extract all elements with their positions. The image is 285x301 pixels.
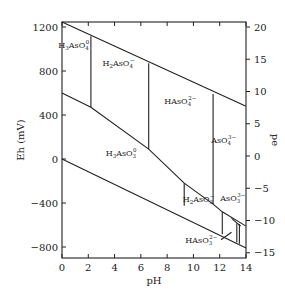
y-axis-left-label: Eh (mV)	[15, 119, 26, 161]
y-right-tick-label: 10	[254, 86, 267, 97]
y-right-tick-label: −5	[254, 183, 269, 194]
water-upper-limit	[62, 22, 246, 106]
water-lower-limit	[62, 159, 246, 248]
y-left-tick-label: −400	[31, 198, 58, 209]
x-axis-label: pH	[146, 275, 161, 286]
as5-as3-boundary	[62, 93, 246, 226]
species-label-haso4: HAsO42−	[164, 95, 196, 107]
x-tick-label: 4	[111, 262, 117, 273]
eh-ph-diagram: 0246810121412008004000−400−80020151050−5…	[0, 0, 285, 301]
y-right-tick-label: 5	[254, 118, 260, 129]
y-left-tick-label: 400	[39, 110, 58, 121]
y-right-tick-label: 15	[254, 54, 267, 65]
y-left-tick-label: 0	[52, 154, 58, 165]
species-label-h2aso4: H2AsO4−	[102, 57, 134, 69]
y-axis-right-label: pe	[270, 134, 281, 146]
y-left-tick-label: 1200	[33, 22, 58, 33]
x-tick-label: 0	[59, 262, 65, 273]
y-left-tick-label: −800	[31, 242, 58, 253]
species-label-aso4: AsO43−	[210, 134, 236, 146]
species-label-haso3: HAsO32−	[185, 234, 217, 246]
axis-ticks: 0246810121412008004000−400−80020151050−5…	[31, 22, 276, 274]
x-tick-label: 14	[240, 262, 253, 273]
species-label-h2aso3: H2AsO3−	[183, 193, 215, 205]
y-right-tick-label: −10	[254, 215, 275, 226]
x-tick-label: 8	[164, 262, 170, 273]
x-tick-label: 2	[85, 262, 91, 273]
y-right-tick-label: 20	[254, 22, 267, 33]
y-left-tick-label: 800	[39, 66, 58, 77]
species-label-aso3: AsO33−	[219, 192, 245, 204]
y-right-tick-label: −15	[254, 247, 275, 258]
y-right-tick-label: 0	[254, 151, 260, 162]
x-tick-label: 6	[138, 262, 144, 273]
x-tick-label: 12	[213, 262, 226, 273]
species-labels: H3AsO40H2AsO4−HAsO42−AsO43−H3AsO30H2AsO3…	[58, 39, 245, 246]
x-tick-label: 10	[187, 262, 200, 273]
species-label-h3aso4: H3AsO40	[58, 39, 89, 51]
species-label-h3aso3: H3AsO30	[106, 147, 137, 159]
